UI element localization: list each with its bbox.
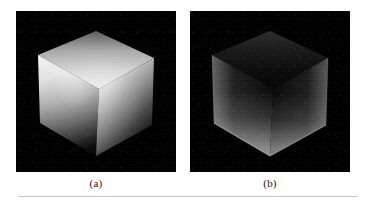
panel-caption-b: (b) bbox=[190, 176, 350, 191]
cube-render-b bbox=[190, 11, 350, 172]
footer-divider bbox=[18, 196, 358, 197]
panel-b-vignette bbox=[190, 11, 350, 172]
panel-a-vignette bbox=[16, 11, 176, 172]
cube-stage-b bbox=[190, 11, 350, 172]
figure-panel-a bbox=[16, 11, 176, 172]
panel-caption-a: (a) bbox=[16, 176, 176, 191]
figure-root: (a) (b) bbox=[0, 0, 375, 203]
cube-render-a bbox=[16, 11, 176, 172]
cube-stage-a bbox=[16, 11, 176, 172]
figure-panel-b bbox=[190, 11, 350, 172]
